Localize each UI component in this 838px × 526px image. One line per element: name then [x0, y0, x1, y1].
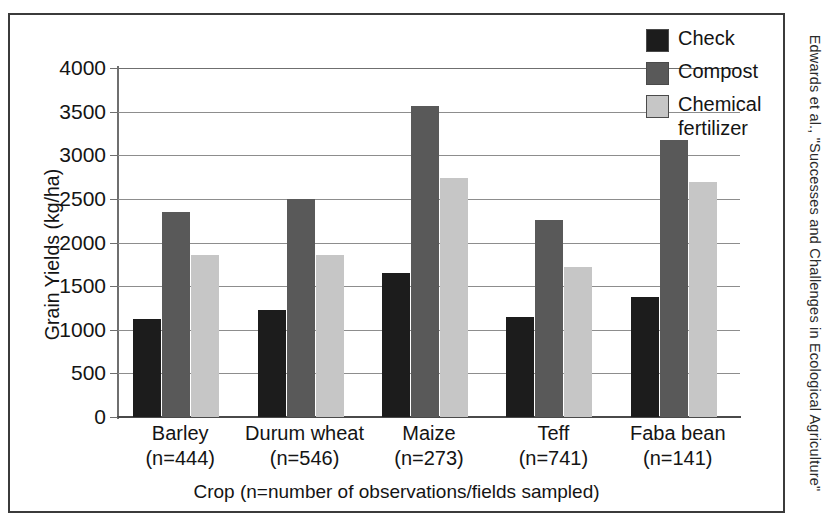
- bar-faba-bean-check: [631, 297, 659, 417]
- legend-swatch-chemical: [646, 95, 669, 118]
- y-tick-3000: [110, 155, 118, 156]
- credit-text: Edwards et al., "Successes and Challenge…: [807, 35, 823, 492]
- bar-barley-check: [133, 319, 161, 417]
- bar-maize-compost: [411, 106, 439, 417]
- bar-faba-bean-compost: [660, 140, 688, 417]
- legend-item-compost: Compost: [646, 59, 778, 89]
- y-tick-4000: [110, 68, 118, 69]
- credit-rail: Edwards et al., "Successes and Challenge…: [793, 0, 837, 526]
- legend-swatch-check: [646, 29, 669, 52]
- x-axis-category-labels: Barley(n=444)Durum wheat(n=546)Maize(n=2…: [118, 421, 740, 485]
- bar-faba-bean-chemical-fertilizer: [689, 182, 717, 417]
- y-tick-2500: [110, 199, 118, 200]
- chart-legend: CheckCompostChemicalfertilizer: [646, 26, 778, 125]
- y-tick-500: [110, 373, 118, 374]
- bar-barley-compost: [162, 212, 190, 417]
- legend-label-line2: fertilizer: [678, 116, 761, 140]
- legend-item-check: Check: [646, 26, 778, 56]
- x-category-count: (n=141): [598, 446, 758, 471]
- bar-group-barley: [133, 68, 219, 417]
- bar-group-maize: [382, 68, 468, 417]
- figure-page: 05001000150020002500300035004000 Grain Y…: [0, 0, 838, 526]
- x-category-name: Faba bean: [598, 421, 758, 446]
- bar-teff-check: [506, 317, 534, 417]
- y-tick-1500: [110, 286, 118, 287]
- y-tick-label-4000: 4000: [32, 57, 106, 78]
- bar-maize-check: [382, 273, 410, 417]
- bar-barley-chemical-fertilizer: [191, 255, 219, 417]
- legend-label-compost: Compost: [678, 59, 758, 83]
- bar-teff-chemical-fertilizer: [564, 267, 592, 417]
- x-category-faba-bean: Faba bean(n=141): [598, 421, 758, 471]
- bar-teff-compost: [535, 220, 563, 417]
- bar-durum-wheat-compost: [287, 199, 315, 417]
- legend-swatch-compost: [646, 62, 669, 85]
- legend-item-chemical: Chemicalfertilizer: [646, 92, 778, 122]
- y-tick-1000: [110, 330, 118, 331]
- y-tick-0: [110, 417, 118, 418]
- y-axis-tick-labels: 05001000150020002500300035004000: [26, 0, 106, 526]
- bar-durum-wheat-chemical-fertilizer: [316, 255, 344, 417]
- bar-group-durum-wheat: [258, 68, 344, 417]
- legend-label-check: Check: [678, 26, 735, 50]
- legend-label-chemical: Chemicalfertilizer: [678, 92, 761, 140]
- bar-durum-wheat-check: [258, 310, 286, 417]
- y-tick-2000: [110, 243, 118, 244]
- x-axis-title: Crop (n=number of observations/fields sa…: [8, 481, 785, 503]
- bar-group-teff: [506, 68, 592, 417]
- y-tick-3500: [110, 112, 118, 113]
- bar-maize-chemical-fertilizer: [440, 178, 468, 417]
- y-axis-title: Grain Yields (kg/ha): [41, 85, 64, 425]
